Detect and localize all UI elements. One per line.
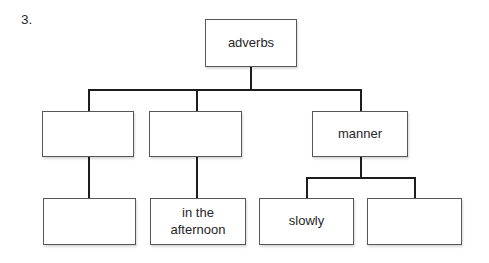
connector-box2-to-child bbox=[196, 156, 198, 198]
connector-box1-to-child bbox=[88, 156, 90, 198]
tree-node-in-the-afternoon: in the afternoon bbox=[150, 198, 246, 245]
tree-node-blank-level2-middle bbox=[149, 111, 242, 157]
connector-level2-drop-left bbox=[88, 89, 90, 111]
tree-node-blank-level3-right bbox=[367, 198, 462, 245]
connector-level2-drop-middle bbox=[196, 89, 198, 111]
tree-node-blank-level2-left bbox=[42, 111, 134, 157]
connector-manner-drop-left bbox=[306, 177, 308, 198]
tree-node-slowly: slowly bbox=[259, 198, 354, 245]
tree-node-blank-level3-left bbox=[43, 198, 136, 245]
connector-manner-drop-right bbox=[414, 177, 416, 198]
connector-level2-drop-manner bbox=[360, 89, 362, 111]
item-number-label: 3. bbox=[21, 12, 32, 27]
connector-manner-drop bbox=[360, 156, 362, 178]
connector-manner-horizontal bbox=[306, 177, 416, 179]
connector-root-drop bbox=[250, 66, 252, 91]
tree-node-manner: manner bbox=[312, 111, 408, 157]
worksheet-diagram: 3. adverbs manner in the afternoon slowl… bbox=[0, 0, 489, 263]
connector-level2-horizontal bbox=[88, 89, 362, 91]
tree-node-adverbs: adverbs bbox=[205, 19, 297, 67]
